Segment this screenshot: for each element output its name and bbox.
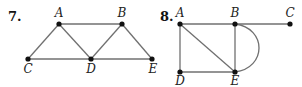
vertex-C: [25, 56, 30, 61]
edge-A-E: [180, 24, 235, 72]
vertex-label-A: A: [54, 6, 64, 20]
figure-number: 8.: [160, 9, 174, 24]
vertex-label-B: B: [117, 6, 127, 20]
vertex-label-B: B: [230, 6, 240, 20]
vertex-B: [119, 21, 124, 26]
graph-figure-8: 8.ABCDE: [160, 6, 295, 87]
graph-figure-7: 7.ABCDE: [8, 6, 158, 76]
vertex-E: [149, 56, 154, 61]
figure-number: 7.: [8, 9, 22, 24]
vertex-label-C: C: [23, 62, 32, 76]
vertex-label-D: D: [85, 62, 96, 76]
edge-B-E: [122, 24, 152, 59]
vertex-label-D: D: [174, 74, 185, 87]
vertex-A: [177, 21, 182, 26]
vertex-C: [287, 21, 292, 26]
edge-A-C: [28, 24, 59, 59]
curved-edge-B-E: [235, 24, 259, 72]
edge-A-D: [59, 24, 91, 59]
vertex-label-A: A: [175, 6, 185, 20]
vertex-B: [232, 21, 237, 26]
edge-B-D: [91, 24, 122, 59]
vertex-label-E: E: [148, 62, 158, 76]
vertex-label-E: E: [230, 74, 240, 87]
graph-figures: 7.ABCDE8.ABCDE: [0, 0, 302, 87]
vertex-D: [88, 56, 93, 61]
vertex-A: [56, 21, 61, 26]
vertex-label-C: C: [285, 6, 294, 20]
